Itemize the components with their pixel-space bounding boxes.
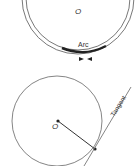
arrow-right-icon — [79, 57, 84, 61]
tangent-figure: O Tangent — [12, 76, 131, 166]
arc-figure: O Arc — [22, 0, 134, 61]
top-center-label: O — [75, 7, 81, 16]
geometry-diagram: O Arc O Tangent — [0, 0, 140, 166]
tangent-label: Tangent — [109, 94, 128, 118]
arrow-left-icon — [87, 57, 92, 61]
arc-label: Arc — [78, 41, 89, 48]
radius-line — [58, 121, 95, 149]
bottom-center-label: O — [52, 122, 58, 131]
